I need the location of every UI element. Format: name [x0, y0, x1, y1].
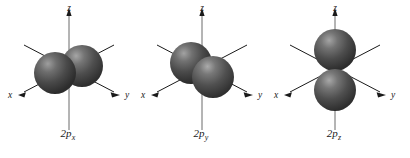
orbital-panel-2px: z x y 2px [0, 0, 136, 158]
orbital-label-sub: x [72, 133, 76, 142]
orbital-panel-2py: z x y 2py [133, 0, 269, 158]
orbital-panel-2pz: z x y 2pz [266, 0, 402, 158]
orbital-lobes [314, 29, 356, 111]
axis-label-x: x [7, 90, 13, 100]
orbital-label-2px: 2px [0, 127, 136, 142]
axis-label-z: z [66, 3, 71, 13]
axis-label-y: y [124, 90, 130, 100]
orbital-lobes [170, 42, 234, 98]
orbital-label-main: 2p [60, 127, 71, 139]
axis-label-y: y [390, 90, 396, 100]
orbital-label-sub: z [338, 133, 341, 142]
axis-label-y: y [257, 90, 263, 100]
axis-label-x: x [140, 90, 146, 100]
orbital-figure: z x y 2px [0, 0, 410, 158]
orbital-label-main: 2p [193, 127, 204, 139]
axis-label-x: x [273, 90, 279, 100]
orbital-label-main: 2p [327, 127, 338, 139]
axis-label-z: z [199, 3, 204, 13]
orbital-label-2pz: 2pz [266, 127, 402, 142]
orbital-label-2py: 2py [133, 127, 269, 142]
orbital-lobes [34, 45, 103, 94]
axis-label-z: z [332, 3, 337, 13]
orbital-label-sub: y [205, 133, 209, 142]
